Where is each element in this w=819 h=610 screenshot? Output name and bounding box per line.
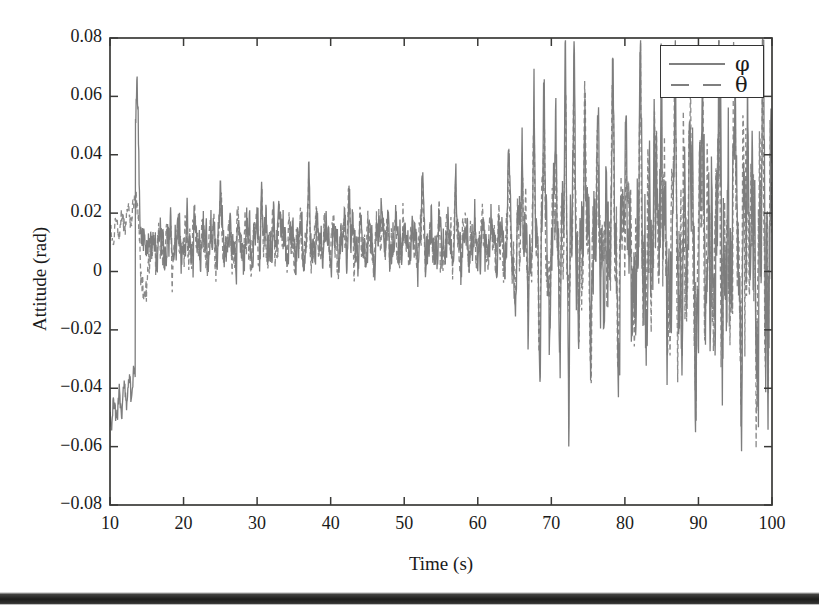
x-tick-label: 20: [154, 513, 214, 534]
y-tick-label: −0.08: [32, 493, 102, 514]
legend-entry-theta: θ: [669, 73, 748, 97]
x-tick-label: 50: [374, 513, 434, 534]
y-tick-label: 0.08: [32, 26, 102, 47]
axes-frame: [110, 38, 772, 505]
x-axis-label: Time (s): [341, 553, 541, 575]
x-tick-label: 70: [521, 513, 581, 534]
x-tick-label: 30: [227, 513, 287, 534]
y-axis-ticks: [110, 38, 772, 505]
legend-swatch-solid-line: [669, 57, 725, 71]
y-axis-label: Attitude (rad): [29, 179, 51, 379]
y-tick-label: 0.06: [32, 84, 102, 105]
y-tick-label: 0.04: [32, 143, 102, 164]
x-axis-ticks: [110, 38, 772, 505]
x-tick-label: 40: [301, 513, 361, 534]
x-tick-label: 10: [80, 513, 140, 534]
legend-swatch-dashed-line: [669, 78, 725, 92]
attitude-time-plot: −0.08−0.06−0.04−0.0200.020.040.060.08 10…: [0, 0, 819, 610]
page-edge-shadow: [0, 592, 819, 605]
x-tick-label: 90: [668, 513, 728, 534]
series-phi-line: [110, 39, 772, 451]
y-tick-label: −0.04: [32, 376, 102, 397]
x-tick-label: 80: [595, 513, 655, 534]
series-layer: [110, 39, 772, 451]
legend: φ θ: [660, 45, 764, 98]
legend-label-theta: θ: [735, 73, 748, 97]
x-tick-label: 60: [448, 513, 508, 534]
y-tick-label: −0.06: [32, 435, 102, 456]
x-tick-label: 100: [742, 513, 802, 534]
